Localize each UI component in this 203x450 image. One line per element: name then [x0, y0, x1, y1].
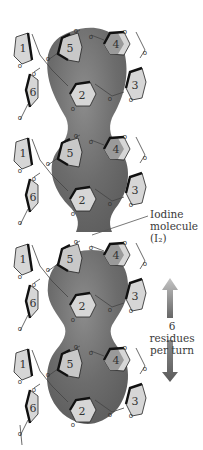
iodine-label-line3: (I₂) — [150, 232, 198, 244]
iodine-label: Iodine molecule (I₂) — [150, 208, 198, 244]
residues-per-turn-line1: 6 residues — [148, 320, 196, 344]
iodine-label-line1: Iodine — [150, 208, 198, 220]
turn-arrow-up — [162, 278, 178, 318]
residues-per-turn-label: 6 residues per turn — [148, 320, 196, 356]
residues-per-turn-line2: per turn — [148, 344, 196, 356]
iodine-label-line2: molecule — [150, 220, 198, 232]
